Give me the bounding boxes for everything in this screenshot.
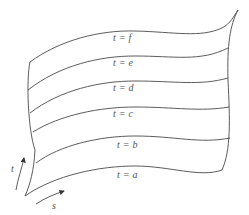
t-direction-arrow-icon bbox=[16, 158, 24, 190]
top-boundary bbox=[30, 10, 238, 62]
right-boundary bbox=[222, 10, 238, 170]
label-t-d: t=d bbox=[113, 82, 135, 93]
label-t-c: t=c bbox=[113, 108, 134, 119]
surface-diagram: t=f t=e t=d t=c t=b t=a t s bbox=[0, 0, 249, 215]
t-axis-label: t bbox=[11, 163, 14, 174]
label-t-a: t=a bbox=[117, 169, 138, 180]
left-boundary bbox=[25, 62, 35, 196]
label-t-f: t=f bbox=[113, 32, 133, 43]
label-t-b: t=b bbox=[117, 139, 138, 150]
s-direction-arrow-icon bbox=[36, 191, 64, 204]
s-axis-label: s bbox=[52, 200, 56, 211]
label-t-e: t=e bbox=[113, 57, 134, 68]
